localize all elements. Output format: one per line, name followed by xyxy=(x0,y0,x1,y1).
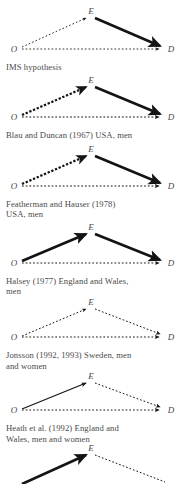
node-label-origin: O xyxy=(11,405,18,415)
node-label-origin: O xyxy=(11,44,18,54)
diagram-blau-duncan-1967: O E D xyxy=(0,72,189,130)
diagram-seven-partial: E xyxy=(0,444,189,484)
diagram-halsey-1977: O E D xyxy=(0,220,189,276)
panel-caption: Featherman and Hauser (1978) USA, men xyxy=(0,199,189,220)
panel-jonsson-1992-1993: O E D Jonsson (1992, 1993) Sweden, men a… xyxy=(0,296,189,371)
edge-origin-to-education xyxy=(22,18,86,47)
edge-education-to-destination xyxy=(95,383,160,407)
node-label-origin: O xyxy=(11,112,18,122)
panel-caption: Halsey (1977) England and Wales, men xyxy=(0,276,189,297)
node-label-origin: O xyxy=(11,181,18,191)
node-label-education: E xyxy=(87,222,94,232)
edge-origin-to-education xyxy=(22,455,86,484)
edge-origin-to-education xyxy=(22,87,86,115)
panel-featherman-hauser-1978: O E D Featherman and Hauser (1978) USA, … xyxy=(0,141,189,220)
panel-blau-duncan-1967: O E D Blau and Duncan (1967) USA, men xyxy=(0,72,189,140)
panel-caption: Jonsson (1992, 1993) Sweden, men and wom… xyxy=(0,350,189,371)
node-label-destination: D xyxy=(167,258,175,268)
node-label-destination: D xyxy=(167,332,175,342)
node-label-destination: D xyxy=(167,181,175,191)
node-label-education: E xyxy=(87,6,94,16)
node-label-education: E xyxy=(87,75,94,85)
edge-education-to-destination xyxy=(95,87,160,114)
node-label-destination: D xyxy=(167,112,175,122)
panel-caption: Blau and Duncan (1967) USA, men xyxy=(0,130,189,140)
edge-education-to-destination xyxy=(95,156,160,183)
panel-ims-hypothesis: O E D IMS hypothesis xyxy=(0,0,189,72)
panel-heath-et-al-1992: O E D Heath et al. (1992) England and Wa… xyxy=(0,371,189,444)
edge-education-to-destination xyxy=(95,455,165,482)
edge-origin-to-education xyxy=(22,383,86,409)
diagram-ims-hypothesis: O E D xyxy=(0,0,189,62)
diagram-heath-et-al-1992: O E D xyxy=(0,371,189,423)
panel-caption: IMS hypothesis xyxy=(0,62,189,72)
panel-halsey-1977: O E D Halsey (1977) England and Wales, m… xyxy=(0,220,189,297)
node-label-destination: D xyxy=(167,44,175,54)
node-label-destination: D xyxy=(167,405,175,415)
diagram-jonsson-1992-1993: O E D xyxy=(0,296,189,350)
node-label-education: E xyxy=(87,444,94,453)
panel-seven-partial: E xyxy=(0,444,189,484)
edge-origin-to-education xyxy=(22,234,86,261)
panel-caption: Heath et al. (1992) England and Wales, m… xyxy=(0,423,189,444)
edge-origin-to-education xyxy=(22,309,86,336)
node-label-origin: O xyxy=(11,332,18,342)
edge-education-to-destination xyxy=(95,309,160,334)
node-label-education: E xyxy=(87,297,94,307)
diagram-featherman-hauser-1978: O E D xyxy=(0,141,189,199)
edge-origin-to-education xyxy=(22,156,86,184)
node-label-education: E xyxy=(87,144,94,154)
node-label-education: E xyxy=(87,371,94,381)
edge-education-to-destination xyxy=(95,18,160,46)
node-label-origin: O xyxy=(11,258,18,268)
edge-education-to-destination xyxy=(95,234,160,260)
